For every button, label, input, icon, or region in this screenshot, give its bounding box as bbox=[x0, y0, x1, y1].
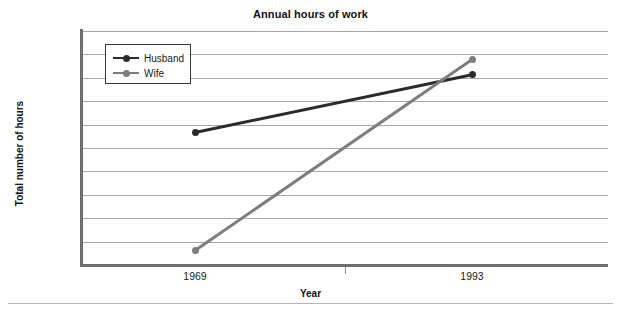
legend-marker-wife bbox=[113, 69, 139, 78]
x-tick-label: 1969 bbox=[165, 270, 225, 282]
legend-label-husband: Husband bbox=[144, 53, 184, 64]
data-point-wife-1969 bbox=[192, 247, 199, 254]
chart-legend: Husband Wife bbox=[105, 44, 191, 84]
y-axis-line bbox=[80, 29, 83, 267]
figure-annual-hours-of-work: Annual hours of work Total number of hou… bbox=[0, 0, 621, 315]
series-line-wife bbox=[194, 58, 473, 251]
legend-label-wife: Wife bbox=[144, 68, 164, 79]
caption-divider bbox=[8, 303, 613, 304]
gridline bbox=[82, 242, 608, 243]
chart-title: Annual hours of work bbox=[0, 8, 621, 20]
x-tick-label: 1993 bbox=[442, 270, 502, 282]
legend-marker-husband bbox=[113, 54, 139, 63]
data-point-husband-1969 bbox=[192, 129, 199, 136]
x-axis-title: Year bbox=[0, 288, 621, 299]
legend-item-husband: Husband bbox=[113, 51, 184, 65]
gridline bbox=[82, 218, 608, 219]
legend-item-wife: Wife bbox=[113, 66, 164, 80]
figure-caption bbox=[8, 306, 613, 315]
x-axis-line bbox=[80, 264, 608, 267]
y-axis-title: Total number of hours bbox=[14, 69, 25, 239]
gridline bbox=[82, 31, 608, 32]
gridline bbox=[82, 125, 608, 126]
data-point-wife-1993 bbox=[469, 56, 476, 63]
x-axis-center-tick bbox=[345, 267, 346, 274]
gridline bbox=[82, 195, 608, 196]
gridline bbox=[82, 171, 608, 172]
